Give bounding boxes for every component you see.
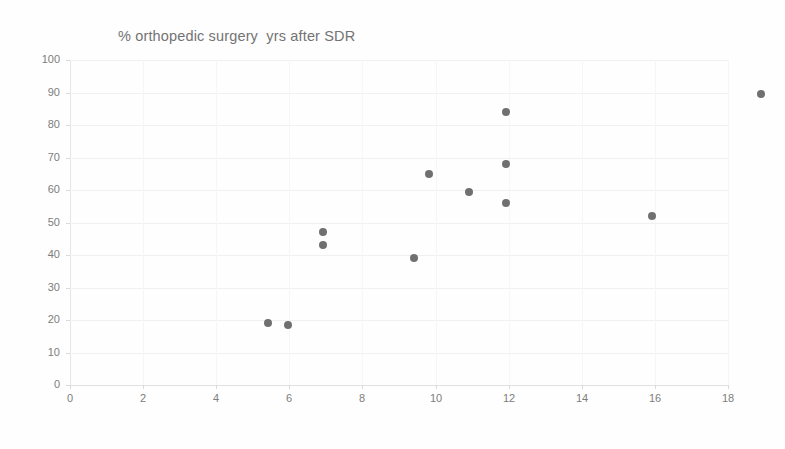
data-point bbox=[465, 188, 473, 196]
gridline-x-4 bbox=[216, 60, 217, 385]
data-point bbox=[502, 199, 510, 207]
y-tick-label-90: 90 bbox=[16, 86, 60, 98]
x-tick-label-14: 14 bbox=[562, 392, 602, 404]
data-point bbox=[319, 241, 327, 249]
x-tick-label-18: 18 bbox=[708, 392, 748, 404]
data-point bbox=[319, 228, 327, 236]
gridline-x-6 bbox=[289, 60, 290, 385]
x-tick-label-6: 6 bbox=[269, 392, 309, 404]
y-tick-label-10: 10 bbox=[16, 346, 60, 358]
x-tick-label-0: 0 bbox=[50, 392, 90, 404]
plot-area bbox=[70, 60, 728, 385]
x-tick-mark-2 bbox=[143, 385, 144, 389]
x-tick-mark-0 bbox=[70, 385, 71, 389]
y-tick-label-80: 80 bbox=[16, 118, 60, 130]
x-tick-label-8: 8 bbox=[342, 392, 382, 404]
x-tick-mark-10 bbox=[436, 385, 437, 389]
data-point bbox=[502, 108, 510, 116]
y-tick-label-50: 50 bbox=[16, 216, 60, 228]
data-point bbox=[502, 160, 510, 168]
y-tick-label-70: 70 bbox=[16, 151, 60, 163]
x-tick-label-2: 2 bbox=[123, 392, 163, 404]
gridline-x-8 bbox=[362, 60, 363, 385]
gridline-y-0 bbox=[70, 385, 728, 386]
gridline-x-10 bbox=[436, 60, 437, 385]
gridline-x-16 bbox=[655, 60, 656, 385]
x-tick-mark-12 bbox=[509, 385, 510, 389]
x-tick-mark-18 bbox=[728, 385, 729, 389]
data-point bbox=[648, 212, 656, 220]
data-point bbox=[757, 90, 765, 98]
data-point bbox=[425, 170, 433, 178]
y-tick-label-20: 20 bbox=[16, 313, 60, 325]
gridline-x-18 bbox=[728, 60, 729, 385]
x-tick-mark-4 bbox=[216, 385, 217, 389]
gridline-x-14 bbox=[582, 60, 583, 385]
y-tick-label-30: 30 bbox=[16, 281, 60, 293]
y-tick-label-0: 0 bbox=[16, 378, 60, 390]
x-tick-label-12: 12 bbox=[489, 392, 529, 404]
x-tick-mark-16 bbox=[655, 385, 656, 389]
chart-title: % orthopedic surgery yrs after SDR bbox=[118, 28, 355, 44]
data-point bbox=[410, 254, 418, 262]
x-tick-label-16: 16 bbox=[635, 392, 675, 404]
x-tick-label-4: 4 bbox=[196, 392, 236, 404]
x-tick-label-10: 10 bbox=[416, 392, 456, 404]
y-tick-label-60: 60 bbox=[16, 183, 60, 195]
y-tick-label-100: 100 bbox=[16, 53, 60, 65]
x-tick-mark-8 bbox=[362, 385, 363, 389]
x-tick-mark-14 bbox=[582, 385, 583, 389]
data-point bbox=[284, 321, 292, 329]
chart-container: % orthopedic surgery yrs after SDR 01020… bbox=[0, 0, 785, 449]
x-tick-mark-6 bbox=[289, 385, 290, 389]
gridline-x-2 bbox=[143, 60, 144, 385]
data-point bbox=[264, 319, 272, 327]
y-tick-label-40: 40 bbox=[16, 248, 60, 260]
